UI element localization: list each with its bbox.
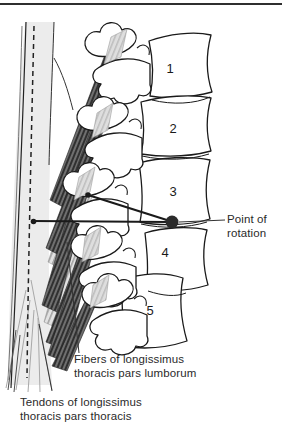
fibers-label: Fibers of longissimus thoracis pars lumb… [74,352,209,380]
vertebra-body-1 [149,33,212,97]
moment-arm-line [33,221,170,222]
point-of-rotation-label: Point of rotation [227,212,282,240]
vertebra-number-5: 5 [146,303,153,318]
vertebra-number-2: 2 [169,121,176,136]
vertebra-number-4: 4 [161,245,168,260]
fascicle-attachment-marker [85,192,91,198]
point-of-rotation-dot [166,216,179,229]
figure-top-border [0,3,282,5]
vertebra-number-3: 3 [169,184,176,199]
tendons-label: Tendons of longissimus thoracis pars tho… [20,395,150,423]
figure-canvas: 1 2 3 4 5 Point of rotation Fibers of lo… [0,0,282,428]
vertebra-number-1: 1 [166,61,173,76]
moment-arm-end-marker [31,219,37,225]
